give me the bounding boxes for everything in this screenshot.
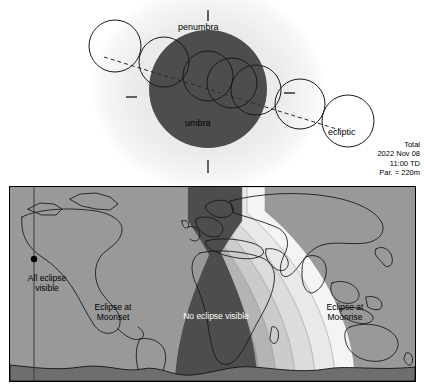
eclipse-kind: Total <box>377 140 420 149</box>
map-label-all-visible-line1: All eclipse <box>14 273 80 283</box>
map-label-moonrise: Eclipse at Moonrise <box>312 302 378 322</box>
eclipse-info-block: Total 2022 Nov 08 11:00 TD Par. = 220m <box>377 140 420 178</box>
map-label-moonrise-line1: Eclipse at <box>312 302 378 312</box>
eclipse-date: 2022 Nov 08 <box>377 149 420 158</box>
map-label-moonset-line1: Eclipse at <box>82 302 144 312</box>
eclipse-parallax: Par. = 220m <box>377 168 420 177</box>
map-label-all-visible-line2: visible <box>14 283 80 293</box>
umbra-label: umbra <box>185 118 211 128</box>
eclipse-time: 11:00 TD <box>377 159 420 168</box>
eclipse-figure: penumbra umbra ecliptic Total 2022 Nov 0… <box>0 0 424 388</box>
map-label-moonset: Eclipse at Moonset <box>82 302 144 322</box>
map-label-no-eclipse-line1: No eclipse visible <box>166 311 266 321</box>
eclipse-geometry-panel: penumbra umbra ecliptic <box>0 0 424 185</box>
sublunar-point <box>31 256 37 262</box>
map-label-moonrise-line2: Moonrise <box>312 312 378 322</box>
moon-circle-p4 <box>322 95 374 147</box>
map-label-moonset-line2: Moonset <box>82 312 144 322</box>
ecliptic-label: ecliptic <box>328 127 356 137</box>
map-label-all-visible: All eclipse visible <box>14 273 80 293</box>
penumbra-label: penumbra <box>178 22 219 32</box>
map-label-no-eclipse: No eclipse visible <box>166 311 266 321</box>
